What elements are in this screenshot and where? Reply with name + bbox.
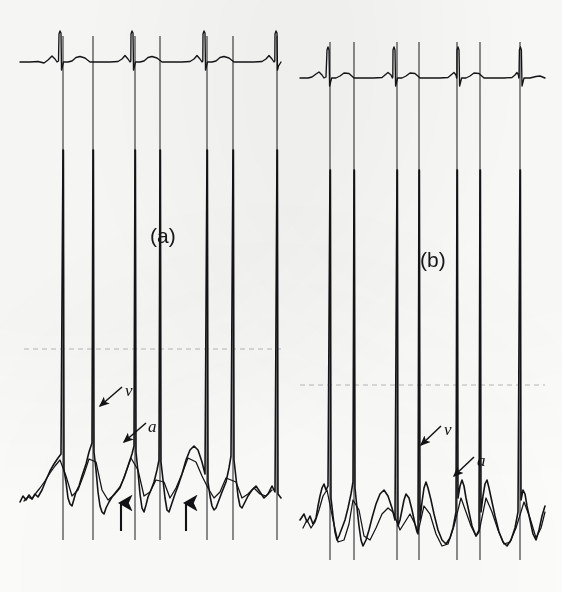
physiology-figure <box>0 0 562 592</box>
panel-a-v-wave-label: v <box>125 381 133 401</box>
panel-b-a-wave-label: a <box>477 451 486 471</box>
panel-a-a-wave-label: a <box>148 417 157 437</box>
panel-label-a: (a) <box>150 224 176 248</box>
panel-label-b: (b) <box>420 248 446 272</box>
panel-b-v-wave-label: v <box>444 420 452 440</box>
paper-background <box>0 0 562 592</box>
